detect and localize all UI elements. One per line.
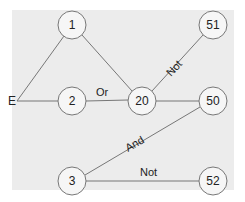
svg-text:50: 50 — [206, 94, 220, 108]
node-50: 50 — [199, 87, 227, 115]
svg-text:2: 2 — [69, 94, 76, 108]
start-label: E — [8, 94, 16, 108]
svg-text:3: 3 — [69, 174, 76, 188]
svg-text:1: 1 — [69, 18, 76, 32]
logic-graph: Or Not And Not E 1 2 20 51 50 3 52 — [0, 0, 245, 202]
edge-label-not-3-52: Not — [140, 166, 157, 178]
edge-label-or: Or — [96, 86, 109, 98]
node-20: 20 — [128, 87, 156, 115]
edge-e-1 — [17, 36, 64, 101]
edge-1-20 — [82, 35, 132, 91]
node-51: 51 — [199, 11, 227, 39]
svg-text:52: 52 — [206, 174, 220, 188]
svg-text:20: 20 — [135, 94, 149, 108]
node-2: 2 — [58, 87, 86, 115]
node-1: 1 — [58, 11, 86, 39]
edge-2-20 — [86, 100, 128, 101]
svg-text:51: 51 — [206, 18, 220, 32]
edge-label-and: And — [123, 134, 146, 154]
node-52: 52 — [199, 167, 227, 195]
node-3: 3 — [58, 167, 86, 195]
